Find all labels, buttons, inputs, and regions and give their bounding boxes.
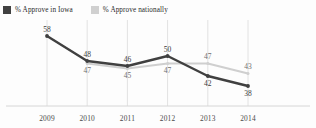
data-point--approve-in-iowa-2010: [85, 59, 89, 63]
x-axis-tick-2011: 2011: [120, 114, 135, 124]
data-point--approve-in-iowa-2009: [45, 34, 49, 38]
data-point--approve-nationally-2014: [247, 72, 250, 75]
data-point--approve-in-iowa-2014: [246, 84, 250, 88]
chart-legend: % Approve in Iowa % Approve nationally: [3, 4, 186, 16]
gridlines: [47, 20, 248, 106]
legend-item-iowa: % Approve in Iowa: [3, 6, 73, 15]
x-axis-tick-2012: 2012: [160, 114, 176, 124]
x-axis-tick-2013: 2013: [200, 114, 216, 124]
data-label-national-2014: 43: [244, 62, 252, 71]
data-label-iowa-2009: 58: [43, 25, 51, 34]
data-label-iowa-2013: 42: [204, 79, 212, 88]
plot-area: 5848465042384745474743: [0, 20, 316, 110]
legend-label-national: % Approve nationally: [103, 6, 168, 15]
legend-swatch-national: [91, 6, 99, 14]
data-label-iowa-2011: 46: [124, 55, 132, 64]
data-point--approve-in-iowa-2013: [206, 74, 210, 78]
data-label-iowa-2012: 50: [164, 45, 172, 54]
data-label-iowa-2014: 38: [244, 89, 252, 98]
x-axis-tick-2010: 2010: [79, 114, 95, 124]
series-line-iowa: [47, 36, 248, 86]
data-point--approve-in-iowa-2012: [166, 54, 170, 58]
data-label-national-2011: 45: [124, 71, 132, 80]
x-axis: 200920102011201220132014: [0, 106, 316, 128]
data-point--approve-nationally-2013: [206, 62, 209, 65]
data-point--approve-nationally-2012: [166, 62, 169, 65]
plot-svg: [0, 20, 316, 110]
data-label-national-2013: 47: [204, 52, 212, 61]
data-point--approve-in-iowa-2011: [126, 64, 130, 68]
x-axis-tick-2014: 2014: [240, 114, 256, 124]
x-axis-tick-2009: 2009: [39, 114, 55, 124]
data-label-national-2012: 47: [164, 66, 172, 75]
legend-swatch-iowa: [3, 6, 11, 14]
legend-label-iowa: % Approve in Iowa: [15, 6, 73, 15]
data-label-national-2010: 47: [83, 66, 91, 75]
data-label-iowa-2010: 48: [83, 50, 91, 59]
legend-item-national: % Approve nationally: [91, 6, 168, 15]
chart-container: % Approve in Iowa % Approve nationally 5…: [0, 0, 316, 128]
